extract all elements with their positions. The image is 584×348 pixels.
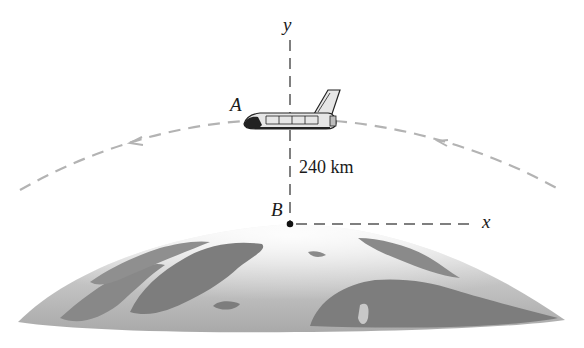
point-b-marker xyxy=(287,221,294,228)
orbit-diagram xyxy=(0,0,584,348)
diagram-stage: y A 240 km B x xyxy=(0,0,584,348)
point-a-label: A xyxy=(230,94,242,116)
x-axis-label: x xyxy=(482,211,490,233)
orbit-arrow-right-icon xyxy=(438,140,448,146)
space-shuttle-icon xyxy=(244,90,340,129)
altitude-label: 240 km xyxy=(299,157,354,178)
point-b-label: B xyxy=(271,199,283,221)
y-axis-label: y xyxy=(283,14,291,36)
earth-surface xyxy=(18,224,565,332)
